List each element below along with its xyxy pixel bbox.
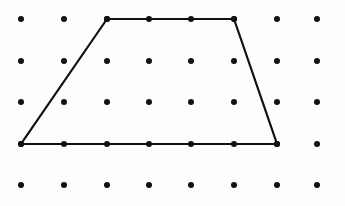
lattice-dot-r2-c6: [231, 58, 237, 64]
trapezoid-outline: [21, 19, 277, 144]
lattice-dot-r2-c2: [61, 58, 67, 64]
lattice-dot-r5-c4: [146, 182, 152, 188]
lattice-dot-r5-c5: [188, 182, 194, 188]
dot-lattice: [18, 16, 320, 188]
geoboard-canvas: [0, 0, 345, 206]
lattice-dot-r5-c8: [314, 182, 320, 188]
lattice-dot-r2-c4: [146, 58, 152, 64]
lattice-dot-r5-c7: [274, 182, 280, 188]
lattice-dot-r3-c5: [188, 99, 194, 105]
lattice-dot-r1-c8: [314, 16, 320, 22]
lattice-dot-r3-c6: [231, 99, 237, 105]
lattice-dot-r2-c7: [274, 58, 280, 64]
lattice-dot-r2-c1: [18, 58, 24, 64]
lattice-dot-r1-c7: [274, 16, 280, 22]
lattice-dot-r3-c7: [274, 99, 280, 105]
lattice-dot-r3-c3: [104, 99, 110, 105]
lattice-dot-r2-c5: [188, 58, 194, 64]
lattice-dot-r3-c8: [314, 99, 320, 105]
lattice-dot-r1-c2: [61, 16, 67, 22]
trapezoid-vertex-bottom-left: [18, 141, 24, 147]
shape-layer: [18, 16, 280, 147]
lattice-dot-r3-c1: [18, 99, 24, 105]
trapezoid-vertex-top-right: [231, 16, 237, 22]
lattice-dot-r4-c8: [314, 141, 320, 147]
trapezoid-vertex-bottom-right: [274, 141, 280, 147]
figure-svg: [0, 0, 345, 206]
lattice-dot-r5-c6: [231, 182, 237, 188]
lattice-dot-r2-c8: [314, 58, 320, 64]
lattice-dot-r5-c1: [18, 182, 24, 188]
lattice-dot-r5-c2: [61, 182, 67, 188]
lattice-dot-r1-c1: [18, 16, 24, 22]
lattice-dot-r3-c4: [146, 99, 152, 105]
lattice-dot-r5-c3: [104, 182, 110, 188]
trapezoid-vertex-top-left: [104, 16, 110, 22]
lattice-dot-r3-c2: [61, 99, 67, 105]
lattice-dot-r2-c3: [104, 58, 110, 64]
